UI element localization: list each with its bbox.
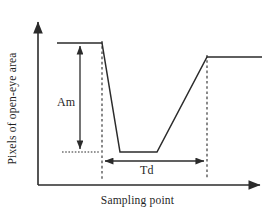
open-eye-area-curve <box>57 43 262 152</box>
duration-label: Td <box>140 163 154 178</box>
x-axis-label: Sampling point <box>0 194 275 206</box>
plot-canvas <box>0 0 275 217</box>
y-axis-label: Pixels of open-eye area <box>0 0 24 217</box>
amplitude-label: Am <box>57 95 75 110</box>
figure-container: Pixels of open-eye area Sampling point A… <box>0 0 275 217</box>
